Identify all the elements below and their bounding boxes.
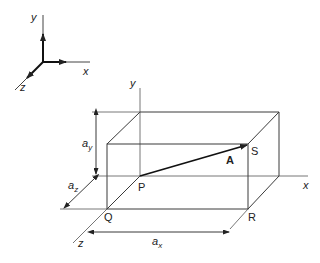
dimension-ax-label: ax (152, 236, 162, 247)
main-y-label: y (130, 78, 136, 89)
point-p-label: P (138, 182, 145, 193)
dimension-ay-label: ay (82, 138, 92, 149)
inset-y-label: y (31, 12, 37, 23)
inset-x-label: x (83, 66, 89, 77)
unit-vector-k-icon (27, 62, 43, 78)
inset-axes (15, 15, 90, 90)
main-z-label: z (78, 238, 84, 249)
point-s-label: S (251, 146, 258, 157)
dimension-az-label: az (68, 180, 78, 191)
main-x-label: x (303, 180, 309, 191)
point-q-label: Q (104, 212, 113, 223)
vector-diagram (0, 0, 320, 263)
extension-lines (60, 112, 248, 229)
vector-a-label: A (226, 155, 234, 166)
point-r-label: R (248, 212, 256, 223)
inset-z-label: z (20, 82, 26, 93)
